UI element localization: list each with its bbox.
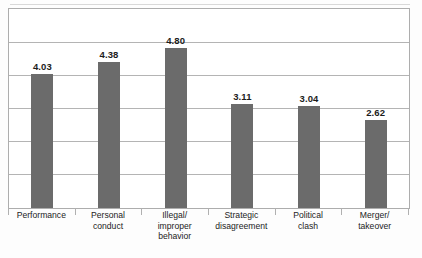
bar-slot-merger-takeover: 2.62 <box>342 9 409 208</box>
category-slot-illegal-improper-behavior: Illegal/ improper behavior <box>141 210 208 242</box>
bar-personal-conduct <box>98 62 120 208</box>
bar-value-label: 4.38 <box>100 49 119 60</box>
bar-illegal-improper-behavior <box>165 48 187 208</box>
plot-area: 4.03 4.38 4.80 3.11 3.04 2.62 <box>8 8 410 209</box>
scan-artifact-line <box>10 4 410 5</box>
bar-chart: 4.03 4.38 4.80 3.11 3.04 2.62 <box>0 0 422 258</box>
category-label: Illegal/ improper behavior <box>141 210 208 242</box>
category-slot-personal-conduct: Personal conduct <box>75 210 142 231</box>
x-axis-labels: Performance Personal conduct Illegal/ im… <box>8 210 410 256</box>
bar-slot-political-clash: 3.04 <box>276 9 343 208</box>
category-tick <box>408 208 409 215</box>
bars-layer: 4.03 4.38 4.80 3.11 3.04 2.62 <box>9 9 409 208</box>
bar-value-label: 4.03 <box>33 61 52 72</box>
category-label: Performance <box>8 210 75 221</box>
category-label: Strategic disagreement <box>208 210 275 231</box>
bar-slot-performance: 4.03 <box>9 9 76 208</box>
category-label: Personal conduct <box>75 210 142 231</box>
bar-value-label: 3.11 <box>233 91 251 102</box>
category-slot-political-clash: Political clash <box>275 210 342 231</box>
bar-merger-takeover <box>365 120 387 208</box>
bar-slot-personal-conduct: 4.38 <box>76 9 143 208</box>
category-label: Political clash <box>275 210 342 231</box>
category-label: Merger/ takeover <box>341 210 408 231</box>
bar-political-clash <box>298 106 320 208</box>
bar-strategic-disagreement <box>231 104 253 208</box>
bar-performance <box>31 74 53 208</box>
bar-value-label: 4.80 <box>166 35 185 46</box>
bar-slot-illegal-improper-behavior: 4.80 <box>142 9 209 208</box>
category-slot-strategic-disagreement: Strategic disagreement <box>208 210 275 231</box>
category-slot-merger-takeover: Merger/ takeover <box>341 210 408 231</box>
category-slot-performance: Performance <box>8 210 75 221</box>
bar-value-label: 3.04 <box>300 93 319 104</box>
bar-value-label: 2.62 <box>366 107 385 118</box>
bar-slot-strategic-disagreement: 3.11 <box>209 9 276 208</box>
